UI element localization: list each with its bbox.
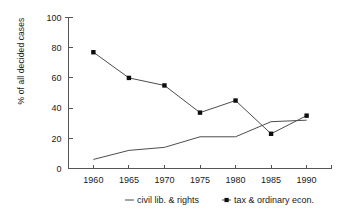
x-tick-label: 1980 bbox=[226, 175, 246, 185]
plot-area: 020406080100 196019651970197519801985199… bbox=[0, 0, 355, 219]
chart-legend: civil lib. & rightstax & ordinary econ. bbox=[125, 195, 314, 205]
y-tick-label: 40 bbox=[51, 103, 61, 113]
legend-item-2: tax & ordinary econ. bbox=[222, 195, 314, 205]
y-tick-label: 100 bbox=[46, 13, 61, 23]
legend-label: civil lib. & rights bbox=[137, 195, 200, 205]
y-tick-marks bbox=[69, 18, 73, 139]
legend-dot-icon bbox=[225, 198, 229, 202]
data-point-marker bbox=[127, 76, 131, 80]
data-point-marker bbox=[162, 83, 166, 87]
series-1 bbox=[93, 120, 306, 159]
series-path bbox=[93, 120, 306, 159]
data-point-marker bbox=[91, 50, 95, 54]
series-2 bbox=[91, 50, 309, 136]
data-point-marker bbox=[198, 110, 202, 114]
x-tick-label: 1985 bbox=[261, 175, 281, 185]
x-tick-label: 1975 bbox=[190, 175, 210, 185]
y-tick-labels: 020406080100 bbox=[46, 13, 61, 174]
x-tick-labels: 1960196519701975198019851990 bbox=[83, 175, 316, 185]
chart-container: % of all decided cases 020406080100 1960… bbox=[0, 0, 355, 219]
x-tick-label: 1965 bbox=[119, 175, 139, 185]
y-tick-label: 0 bbox=[56, 164, 61, 174]
y-tick-label: 20 bbox=[51, 134, 61, 144]
y-axis-line bbox=[65, 18, 69, 169]
legend-item-1: civil lib. & rights bbox=[125, 195, 200, 205]
y-tick-label: 60 bbox=[51, 73, 61, 83]
data-point-marker bbox=[269, 132, 273, 136]
data-point-marker bbox=[304, 113, 308, 117]
y-tick-label: 80 bbox=[51, 43, 61, 53]
data-point-marker bbox=[233, 98, 237, 102]
x-tick-label: 1960 bbox=[83, 175, 103, 185]
series-layer bbox=[91, 50, 309, 159]
x-tick-label: 1970 bbox=[154, 175, 174, 185]
x-tick-label: 1990 bbox=[297, 175, 317, 185]
legend-label: tax & ordinary econ. bbox=[234, 195, 314, 205]
x-tick-marks bbox=[93, 165, 306, 169]
